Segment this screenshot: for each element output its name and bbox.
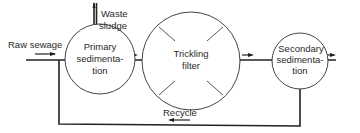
process-flow-diagram: Primary sedimenta- tion Trickling filter…: [0, 0, 360, 133]
filter-label-line1: Trickling: [173, 48, 208, 59]
recycle-arrow-icon: [168, 118, 190, 122]
raw-sewage-label: Raw sewage: [8, 39, 62, 50]
raw-sewage-arrow-icon: [35, 52, 56, 56]
primary-label-line1: Primary: [84, 41, 117, 52]
recycle-label: Recycle: [163, 107, 197, 118]
filter-label-line2: filter: [182, 60, 200, 71]
secondary-label-line2: sedimenta-: [277, 54, 324, 65]
waste-sludge-arrow-icon: [93, 2, 96, 8]
secondary-label-line1: Secondary: [278, 43, 324, 54]
primary-label-line3: tion: [92, 65, 107, 76]
secondary-label-line3: tion: [292, 65, 307, 76]
primary-label-line2: sedimenta-: [77, 53, 124, 64]
sludge-label: sludge: [99, 20, 127, 31]
filter-to-secondary-arrow-icon: [242, 53, 254, 57]
waste-label: Waste: [101, 8, 128, 19]
